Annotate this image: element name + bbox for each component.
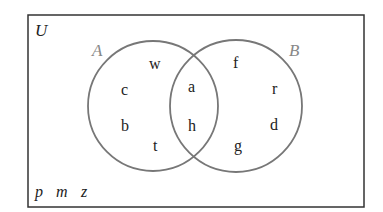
element-intersection: h [188, 117, 196, 134]
element-b-only: r [272, 80, 278, 97]
element-b-only: g [234, 137, 242, 155]
universe-rectangle [28, 15, 364, 207]
universe-label: U [35, 21, 49, 40]
set-a-label: A [91, 41, 103, 60]
element-a-only: t [153, 137, 158, 154]
set-b-label: B [289, 41, 300, 60]
element-intersection: a [188, 78, 195, 95]
venn-diagram: U A B w c b t a h f r d g p m z [0, 0, 383, 212]
element-a-only: c [121, 81, 128, 98]
element-b-only: d [270, 116, 278, 133]
element-outside: m [56, 183, 68, 200]
element-a-only: b [121, 117, 129, 134]
element-outside: p [34, 183, 43, 201]
element-b-only: f [233, 54, 239, 71]
element-a-only: w [149, 55, 161, 72]
element-outside: z [80, 183, 88, 200]
